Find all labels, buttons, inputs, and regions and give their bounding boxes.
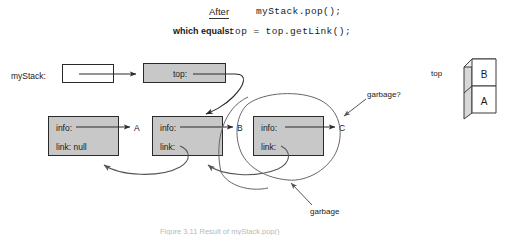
garbage-blob-outline <box>237 94 340 181</box>
leader-garbage-question <box>344 99 366 116</box>
connector-lines-layer <box>0 0 505 235</box>
leader-garbage <box>291 183 312 205</box>
curve-node-c-link-to-node-b <box>208 146 289 175</box>
curve-top-to-node-b <box>193 74 244 114</box>
figure-caption: Figure 3.11 Result of myStack.pop() <box>160 227 280 235</box>
figure-after-mystack-pop: After myStack.pop(); which equals: top =… <box>0 0 505 235</box>
curve-node-b-link-to-node-a <box>104 146 188 174</box>
